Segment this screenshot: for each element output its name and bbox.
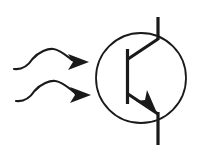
phototransistor-symbol-canvas: [0, 0, 199, 158]
phototransistor-figure: Phototransistor symbol: an NPN transisto…: [0, 0, 199, 158]
upper-light-ray: [14, 49, 89, 70]
lower-light-ray-arrowhead-icon: [70, 87, 91, 103]
upper-light-ray-wave: [14, 49, 80, 69]
transistor-internals-group: [128, 17, 159, 145]
upper-light-ray-arrowhead-icon: [68, 54, 89, 70]
light-rays-group: [14, 49, 91, 103]
transistor-emitter-arrowhead-icon: [136, 90, 157, 113]
lower-light-ray: [16, 81, 91, 103]
lower-light-ray-wave: [16, 81, 82, 101]
transistor-envelope-circle: [96, 33, 186, 123]
transistor-collector-diagonal: [128, 39, 158, 59]
